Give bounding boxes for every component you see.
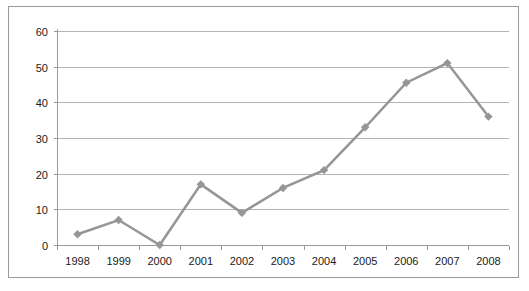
series-line-0 (78, 63, 489, 245)
y-tick-labels-group: 0102030405060 (36, 26, 48, 252)
line-chart: 0102030405060 19981999200020012002200320… (9, 7, 520, 279)
series-group (78, 63, 489, 245)
data-point-marker (73, 230, 81, 238)
x-axis-tick-label: 2007 (435, 255, 459, 267)
chart-border-frame: 0102030405060 19981999200020012002200320… (8, 6, 519, 278)
x-axis-tick-label: 1999 (106, 255, 130, 267)
x-axis-tick-label: 2002 (230, 255, 254, 267)
y-axis-tick-label: 40 (36, 97, 48, 109)
x-axis-tick-label: 2005 (353, 255, 377, 267)
x-axis-tick-label: 2003 (271, 255, 295, 267)
x-axis-tick-label: 2006 (394, 255, 418, 267)
y-axis-tick-label: 30 (36, 133, 48, 145)
markers-group (73, 59, 492, 249)
plot-area: 0102030405060 19981999200020012002200320… (9, 7, 518, 277)
y-axis-tick-label: 10 (36, 204, 48, 216)
y-axis-tick-label: 20 (36, 169, 48, 181)
x-axis-tick-label: 2008 (476, 255, 500, 267)
tick-marks-group (54, 32, 510, 250)
y-axis-tick-label: 0 (42, 240, 48, 252)
y-axis-tick-label: 50 (36, 62, 48, 74)
x-axis-tick-label: 2000 (147, 255, 171, 267)
x-axis-tick-label: 2004 (312, 255, 336, 267)
x-axis-tick-label: 1998 (65, 255, 89, 267)
x-tick-labels-group: 1998199920002001200220032004200520062007… (65, 255, 500, 267)
axes-group (57, 29, 509, 246)
x-axis-tick-label: 2001 (189, 255, 213, 267)
gridlines-group (57, 32, 509, 246)
y-axis-tick-label: 60 (36, 26, 48, 38)
